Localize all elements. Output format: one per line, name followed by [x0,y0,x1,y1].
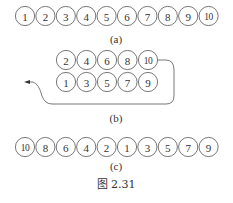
panel-a: 1 2 3 4 5 6 7 8 9 10 (a) [15,6,218,46]
svg-text:4: 4 [84,55,90,67]
svg-text:10: 10 [204,12,213,22]
svg-text:3: 3 [145,142,151,154]
node-a-1: 2 [36,6,55,25]
svg-text:3: 3 [84,77,90,89]
node-b-top-4: 10 [138,50,157,69]
node-c-0: 10 [15,137,34,156]
svg-text:6: 6 [104,55,110,67]
figure-caption: 图 2.31 [97,178,136,191]
node-b-top-1: 4 [77,50,96,69]
svg-text:4: 4 [83,142,89,154]
node-c-5: 1 [117,137,136,156]
node-a-5: 6 [117,6,136,25]
node-b-bottom-2: 5 [97,72,116,91]
svg-text:1: 1 [22,11,28,23]
panel-c-label: (c) [110,160,123,173]
svg-text:5: 5 [104,11,110,23]
svg-text:8: 8 [43,142,49,154]
node-a-4: 5 [97,6,116,25]
svg-text:9: 9 [185,11,191,23]
svg-text:10: 10 [144,56,153,66]
svg-text:8: 8 [125,55,131,67]
node-a-9: 10 [199,6,218,25]
svg-text:1: 1 [63,77,69,89]
svg-text:8: 8 [165,11,171,23]
node-a-2: 3 [56,6,75,25]
node-b-bottom-3: 7 [118,72,137,91]
arrowhead-icon [24,80,30,84]
node-c-3: 4 [77,137,96,156]
svg-text:6: 6 [63,142,69,154]
svg-text:7: 7 [185,142,191,154]
svg-text:5: 5 [104,77,110,89]
node-c-6: 3 [138,137,157,156]
svg-text:3: 3 [63,11,69,23]
node-a-8: 9 [179,6,198,25]
panel-b: 2 4 6 8 10 1 3 5 7 9 (b) [24,50,174,125]
svg-text:10: 10 [21,143,30,153]
node-b-bottom-1: 3 [77,72,96,91]
panel-a-label: (a) [110,33,123,46]
node-c-8: 7 [179,137,198,156]
svg-text:2: 2 [104,142,110,154]
svg-text:2: 2 [43,11,49,23]
node-a-3: 4 [77,6,96,25]
node-c-1: 8 [36,137,55,156]
svg-text:1: 1 [124,142,130,154]
node-c-4: 2 [97,137,116,156]
svg-text:2: 2 [63,55,69,67]
node-b-top-0: 2 [56,50,75,69]
svg-text:4: 4 [83,11,89,23]
node-b-top-2: 6 [97,50,116,69]
panel-b-label: (b) [110,112,123,125]
svg-text:5: 5 [165,142,171,154]
node-b-top-3: 8 [118,50,137,69]
node-b-bottom-4: 9 [138,72,157,91]
node-c-9: 9 [199,137,218,156]
node-b-bottom-0: 1 [56,72,75,91]
node-c-7: 5 [158,137,177,156]
node-c-2: 6 [56,137,75,156]
svg-text:6: 6 [124,11,130,23]
diagram-canvas: 1 2 3 4 5 6 7 8 9 10 (a) 2 4 6 8 10 1 3 … [0,0,233,203]
svg-text:9: 9 [145,77,151,89]
node-a-6: 7 [138,6,157,25]
svg-text:9: 9 [206,142,212,154]
panel-c: 10 8 6 4 2 1 3 5 7 9 (c) [15,137,218,173]
svg-text:7: 7 [125,77,131,89]
svg-text:7: 7 [145,11,151,23]
node-a-0: 1 [15,6,34,25]
node-a-7: 8 [158,6,177,25]
